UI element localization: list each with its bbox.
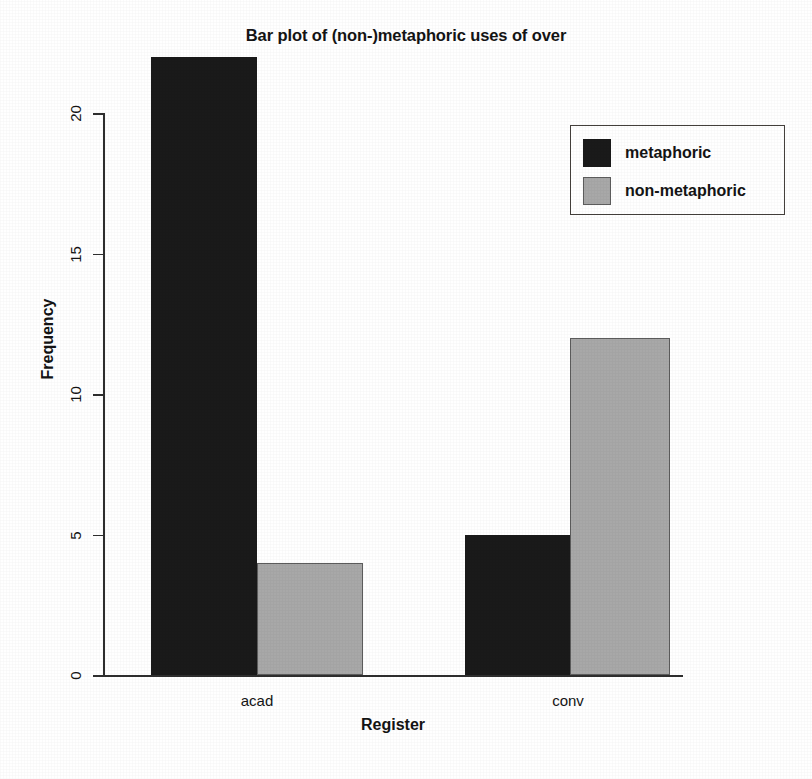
legend-entry-non-metaphoric: non-metaphoric xyxy=(583,174,746,208)
plot-area: 0 5 10 15 20 Frequency Register acad con… xyxy=(0,0,812,779)
y-tick-label-15: 15 xyxy=(67,241,84,267)
y-tick-label-10: 10 xyxy=(67,382,84,408)
y-tick-label-0: 0 xyxy=(67,663,84,689)
y-tick-mark-15 xyxy=(93,254,103,256)
x-axis-title: Register xyxy=(303,716,483,734)
legend-swatch-metaphoric xyxy=(583,139,611,167)
y-axis-title: Frequency xyxy=(39,269,57,409)
legend-swatch-non-metaphoric xyxy=(583,177,611,205)
bar-acad-metaphoric xyxy=(151,57,257,675)
y-tick-mark-20 xyxy=(93,113,103,115)
bar-conv-non-metaphoric xyxy=(570,338,670,675)
bar-acad-non-metaphoric xyxy=(257,563,363,675)
y-tick-mark-5 xyxy=(93,535,103,537)
y-tick-label-5: 5 xyxy=(67,522,84,548)
bar-conv-metaphoric xyxy=(465,535,570,675)
legend-entry-metaphoric: metaphoric xyxy=(583,136,711,170)
chart-legend: metaphoric non-metaphoric xyxy=(570,125,785,215)
x-axis-line xyxy=(103,675,683,677)
scan-caption-remnant xyxy=(0,762,812,779)
legend-label-non-metaphoric: non-metaphoric xyxy=(625,182,746,200)
x-tick-label-acad: acad xyxy=(177,692,337,709)
y-tick-mark-0 xyxy=(93,675,103,677)
y-tick-mark-10 xyxy=(93,394,103,396)
bar-chart-figure: Bar plot of (non-)metaphoric uses of ove… xyxy=(0,0,812,779)
x-tick-label-conv: conv xyxy=(488,692,648,709)
y-tick-label-20: 20 xyxy=(67,101,84,127)
legend-label-metaphoric: metaphoric xyxy=(625,144,711,162)
y-axis-line xyxy=(103,113,105,676)
